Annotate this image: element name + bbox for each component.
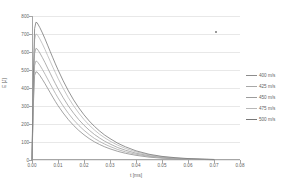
data-curves <box>32 16 240 160</box>
series-line <box>32 34 214 160</box>
legend-item-label: 500 m/s <box>259 117 275 123</box>
y-axis-tick-label: 0 <box>26 158 29 163</box>
x-axis-tick-label: 0.08 <box>236 163 245 169</box>
chart-container: 0100200300400500600700800 0.000.010.020.… <box>0 0 293 184</box>
y-axis-tick-labels: 0100200300400500600700800 <box>10 16 29 160</box>
x-axis-tick-label: 0.03 <box>106 163 115 169</box>
legend-item-label: 425 m/s <box>259 84 275 90</box>
stray-mark-artifact <box>215 31 217 33</box>
legend-item-label: 450 m/s <box>259 95 275 101</box>
y-axis-tick-label: 600 <box>21 50 29 55</box>
y-axis-tick-label: 300 <box>21 104 29 109</box>
x-axis-tick-label: 0.04 <box>132 163 141 169</box>
chart-legend: 400 m/s425 m/s450 m/s475 m/s500 m/s <box>246 70 292 125</box>
y-axis-title: E [J] <box>1 69 7 97</box>
series-line <box>32 48 214 160</box>
legend-line-swatch <box>246 97 257 98</box>
legend-line-swatch <box>246 86 257 87</box>
legend-line-swatch <box>246 75 257 76</box>
legend-item[interactable]: 500 m/s <box>246 114 292 125</box>
legend-item[interactable]: 400 m/s <box>246 70 292 81</box>
y-axis-tick-label: 400 <box>21 86 29 91</box>
legend-line-swatch <box>246 119 257 120</box>
x-axis-tick-label: 0.07 <box>210 163 219 169</box>
x-axis-tick-label: 0.00 <box>28 163 37 169</box>
x-axis-title: t [ms] <box>32 172 240 178</box>
y-axis-tick-label: 100 <box>21 140 29 145</box>
y-axis-tick-label: 700 <box>21 32 29 37</box>
x-axis-tick-label: 0.02 <box>80 163 89 169</box>
x-axis-tick-labels: 0.000.010.020.030.040.050.060.070.08 <box>32 163 240 171</box>
x-axis-tick-label: 0.06 <box>184 163 193 169</box>
y-axis-tick-label: 800 <box>21 14 29 19</box>
y-axis-tick-label: 500 <box>21 68 29 73</box>
x-axis-tick-label: 0.05 <box>158 163 167 169</box>
plot-area <box>32 16 240 160</box>
x-axis-tick-label: 0.01 <box>54 163 63 169</box>
legend-item[interactable]: 425 m/s <box>246 81 292 92</box>
legend-item-label: 475 m/s <box>259 106 275 112</box>
legend-item-label: 400 m/s <box>259 73 275 79</box>
legend-line-swatch <box>246 108 257 109</box>
series-line <box>32 72 214 160</box>
legend-item[interactable]: 450 m/s <box>246 92 292 103</box>
legend-item[interactable]: 475 m/s <box>246 103 292 114</box>
series-line <box>32 61 214 160</box>
y-axis-tick-label: 200 <box>21 122 29 127</box>
